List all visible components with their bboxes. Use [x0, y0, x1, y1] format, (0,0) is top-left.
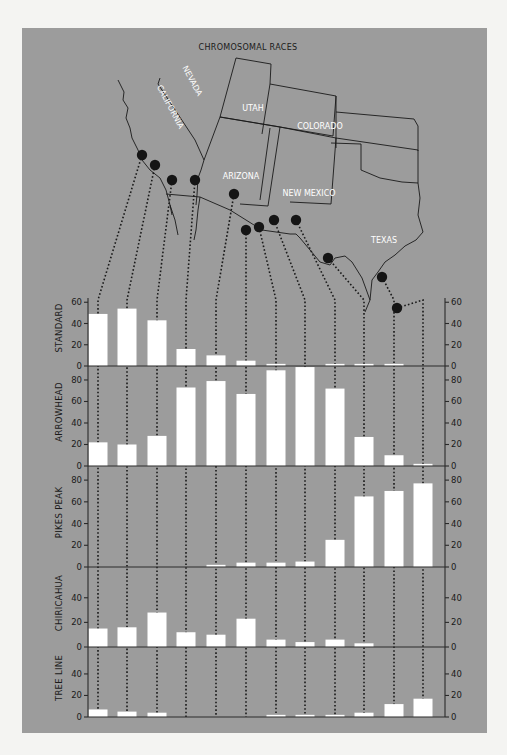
- panel-label: ARROWHEAD: [54, 382, 64, 442]
- tick-label-right: 20: [451, 340, 462, 350]
- bar: [296, 562, 315, 567]
- bar: [414, 699, 433, 717]
- bar: [355, 437, 374, 466]
- chromosomal-races-figure: CHROMOSOMAL RACES: [22, 28, 487, 733]
- panel-label: TREE LINE: [54, 655, 64, 702]
- bar: [89, 709, 108, 717]
- sampling-site-dot: [241, 225, 251, 235]
- bar: [148, 436, 167, 466]
- tick-label-left: 60: [71, 396, 82, 406]
- bar: [267, 563, 286, 567]
- panel-tree-line: 0020204040TREE LINE: [54, 647, 462, 722]
- panel-arrowhead: 002020404060608080ARROWHEAD: [54, 366, 462, 471]
- bar: [118, 627, 137, 647]
- tick-label-right: 40: [451, 418, 462, 428]
- tick-label-right: 60: [451, 297, 462, 307]
- bar: [148, 713, 167, 717]
- sampling-site-dot: [323, 253, 333, 263]
- bar: [148, 320, 167, 366]
- bar: [118, 444, 137, 466]
- state-label: ARIZONA: [223, 172, 260, 181]
- bar: [207, 355, 226, 366]
- bar: [237, 619, 256, 647]
- tick-label-right: 0: [451, 712, 456, 722]
- bar: [118, 712, 137, 717]
- tick-label-right: 40: [451, 519, 462, 529]
- tick-label-left: 80: [71, 375, 82, 385]
- tick-label-left: 0: [77, 461, 82, 471]
- tick-label-left: 40: [71, 593, 82, 603]
- sampling-site-dot: [254, 222, 264, 232]
- panel-label: CHIRICAHUA: [54, 575, 64, 631]
- figure-title: CHROMOSOMAL RACES: [199, 43, 298, 52]
- state-label: COLORADO: [297, 122, 343, 131]
- bar: [177, 349, 196, 366]
- bar: [267, 370, 286, 466]
- bar: [237, 361, 256, 366]
- tick-label-right: 20: [451, 540, 462, 550]
- tick-label-right: 40: [451, 669, 462, 679]
- panel-label: PIKES PEAK: [54, 487, 64, 539]
- state-label: TEXAS: [370, 236, 397, 245]
- tick-label-left: 20: [71, 690, 82, 700]
- site-connector-line: [328, 258, 364, 717]
- sampling-site-dot: [190, 175, 200, 185]
- bar: [89, 442, 108, 466]
- tick-label-right: 60: [451, 396, 462, 406]
- bar: [385, 704, 404, 717]
- tick-label-right: 0: [451, 642, 456, 652]
- tick-label-right: 60: [451, 497, 462, 507]
- bar: [177, 632, 196, 647]
- bar: [89, 629, 108, 647]
- bar: [414, 483, 433, 567]
- tick-label-left: 40: [71, 669, 82, 679]
- tick-label-left: 60: [71, 497, 82, 507]
- tick-label-right: 0: [451, 361, 456, 371]
- tick-label-right: 80: [451, 475, 462, 485]
- bar: [207, 635, 226, 647]
- sampling-site-dot: [150, 160, 160, 170]
- bar: [355, 496, 374, 567]
- tick-label-right: 20: [451, 617, 462, 627]
- bar: [326, 389, 345, 466]
- bar: [89, 314, 108, 366]
- state-label: NEW MEXICO: [282, 189, 335, 198]
- bar: [296, 642, 315, 647]
- tick-label-left: 40: [71, 319, 82, 329]
- state-label: CALIFORNIA: [155, 83, 186, 130]
- state-label: UTAH: [242, 104, 264, 113]
- bar: [148, 613, 167, 647]
- bar: [207, 381, 226, 466]
- bar: [118, 309, 137, 366]
- chart-panels: 00202040406060STANDARD002020404060608080…: [54, 297, 462, 722]
- panel-pikes-peak: 002020404060608080PIKES PEAK: [54, 466, 462, 572]
- sampling-site-dot: [167, 175, 177, 185]
- state-label: NEVADA: [180, 64, 204, 98]
- bar: [267, 640, 286, 647]
- panel-chiricahua: 0020204040CHIRICAHUA: [54, 567, 462, 652]
- tick-label-left: 40: [71, 418, 82, 428]
- tick-label-left: 40: [71, 519, 82, 529]
- tick-label-right: 40: [451, 319, 462, 329]
- sampling-site-dot: [269, 215, 279, 225]
- tick-label-right: 20: [451, 439, 462, 449]
- tick-label-right: 0: [451, 562, 456, 572]
- figure-canvas: CHROMOSOMAL RACES: [22, 28, 487, 733]
- panel-label: STANDARD: [54, 303, 64, 352]
- bar: [296, 367, 315, 466]
- bar: [355, 713, 374, 717]
- tick-label-right: 0: [451, 461, 456, 471]
- sampling-site-dot: [291, 215, 301, 225]
- sampling-site-dot: [137, 150, 147, 160]
- tick-label-left: 0: [77, 562, 82, 572]
- tick-label-left: 60: [71, 297, 82, 307]
- tick-label-left: 20: [71, 340, 82, 350]
- bar: [385, 491, 404, 567]
- bar: [326, 640, 345, 647]
- sampling-site-dot: [229, 189, 239, 199]
- tick-label-left: 0: [77, 642, 82, 652]
- bar: [326, 540, 345, 567]
- bar: [385, 455, 404, 466]
- sampling-site-dot: [392, 303, 402, 313]
- tick-label-left: 80: [71, 475, 82, 485]
